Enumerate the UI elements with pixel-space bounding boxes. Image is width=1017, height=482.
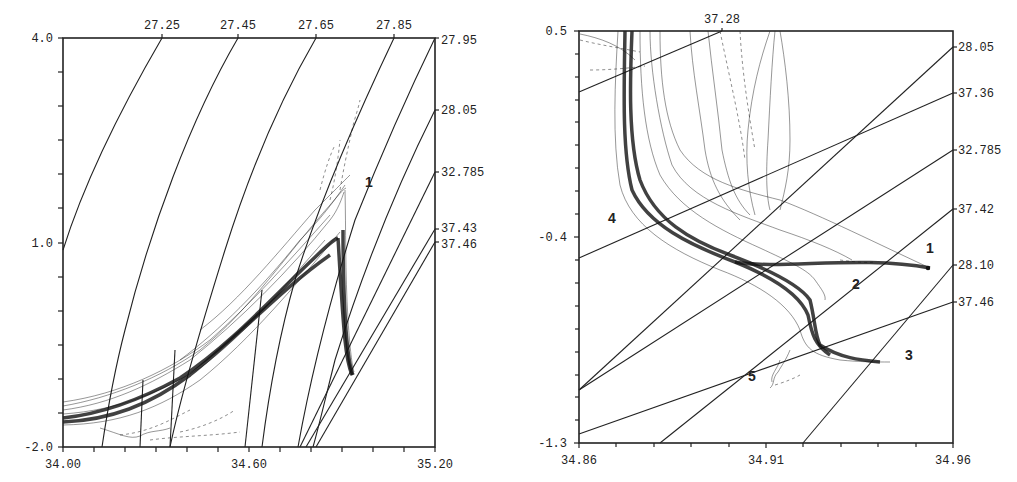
- isopycnal-label: 28.10: [958, 259, 994, 273]
- isopycnal-37.36: [579, 93, 953, 258]
- profile-marker-1: 1: [365, 174, 373, 190]
- right-profiles: [580, 31, 930, 388]
- isopycnal-label: 32.785: [958, 144, 1001, 158]
- y-label: -0.4: [538, 231, 567, 245]
- isopycnal-27.85: [262, 38, 394, 447]
- left-isopycnals: [63, 38, 435, 447]
- isopycnal-label: 28.05: [958, 41, 994, 55]
- right-plot-frame: [579, 31, 953, 443]
- x-label: 34.60: [231, 458, 267, 472]
- isopycnal-28.10: [803, 265, 953, 443]
- isopycnal-label: 37.43: [441, 222, 477, 236]
- isopycnal-28.05: [313, 110, 435, 447]
- profile-marker-5: 5: [748, 368, 756, 384]
- isopycnal-label: 37.46: [441, 238, 477, 252]
- isopycnal-28.05: [579, 47, 953, 390]
- figure: 4.0 1.0 -2.0 34.00 34.60 35.20 27.25 27.…: [0, 0, 1017, 482]
- isopycnal-label: 27.95: [441, 34, 477, 48]
- profile-marker-2: 2: [852, 276, 860, 292]
- left-x-axis-labels: 34.00 34.60 35.20: [45, 458, 453, 472]
- x-label: 35.20: [417, 458, 453, 472]
- x-label: 34.91: [748, 454, 784, 468]
- left-right-isopycnal-labels: 27.95 28.05 32.785 37.43 37.46: [441, 34, 484, 252]
- profile-1-endpoint: [926, 266, 930, 270]
- right-x-axis-labels: 34.86 34.91 34.96: [561, 454, 971, 468]
- right-y-axis-labels: 0.5 -0.4 -1.3: [538, 25, 567, 451]
- x-label: 34.96: [935, 454, 971, 468]
- isopycnal-label: 27.45: [220, 19, 256, 33]
- isopycnal-label: 27.25: [144, 19, 180, 33]
- right-top-isopycnal-labels: 37.28: [704, 13, 740, 27]
- y-label: 1.0: [31, 237, 53, 251]
- x-label: 34.86: [561, 454, 597, 468]
- isopycnal-37.46: [316, 242, 435, 447]
- y-label: 0.5: [545, 25, 567, 39]
- left-plot-frame: [63, 38, 435, 447]
- left-chart: 4.0 1.0 -2.0 34.00 34.60 35.20 27.25 27.…: [24, 19, 484, 472]
- isopycnal-37.43: [306, 229, 435, 447]
- left-profiles: [63, 100, 360, 440]
- right-chart: 0.5 -0.4 -1.3 34.86 34.91 34.96 37.28 28…: [538, 13, 1001, 468]
- isopycnal-low: [140, 380, 143, 447]
- profile-marker-4: 4: [608, 210, 616, 226]
- isopycnal-label: 32.785: [441, 166, 484, 180]
- y-label: -2.0: [24, 441, 53, 455]
- isopycnal-label: 37.28: [704, 13, 740, 27]
- y-label: 4.0: [31, 32, 53, 46]
- left-ticks: [58, 34, 439, 452]
- isopycnal-label: 28.05: [441, 104, 477, 118]
- isopycnal-label: 27.85: [376, 19, 412, 33]
- isopycnal-27.25: [63, 38, 162, 250]
- isopycnal-label: 37.46: [958, 296, 994, 310]
- isopycnal-27.95: [298, 38, 435, 447]
- isopycnal-37.46: [579, 302, 953, 434]
- isopycnal-27.45: [102, 38, 238, 447]
- profile-marker-1: 1: [926, 240, 934, 256]
- x-label: 34.00: [45, 458, 81, 472]
- left-top-isopycnal-labels: 27.25 27.45 27.65 27.85: [144, 19, 412, 33]
- profile-marker-3: 3: [905, 347, 913, 363]
- isopycnal-32.785: [300, 172, 435, 447]
- y-label: -1.3: [538, 437, 567, 451]
- isopycnal-label: 37.36: [958, 87, 994, 101]
- right-right-isopycnal-labels: 28.05 37.36 32.785 37.42 28.10 37.46: [958, 41, 1001, 310]
- isopycnal-label: 27.65: [298, 19, 334, 33]
- left-y-axis-labels: 4.0 1.0 -2.0: [24, 32, 53, 455]
- right-isopycnals: [579, 31, 953, 443]
- isopycnal-label: 37.42: [958, 203, 994, 217]
